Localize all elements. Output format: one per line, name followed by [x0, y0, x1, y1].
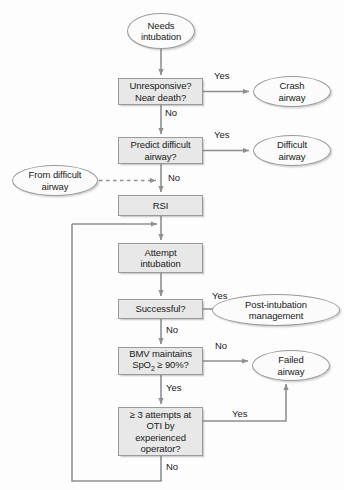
edge-label-yes-crash-airway: Yes	[214, 70, 230, 81]
edge-label-yes-post-intubation: Yes	[212, 290, 228, 301]
node-post-intubation-management: Post-intubation management	[212, 294, 340, 326]
airway-algorithm-flowchart: Needs intubation Unresponsive? Near deat…	[0, 0, 344, 490]
edge-label-no-failed-airway: No	[215, 340, 227, 351]
node-bmv-label: BMV maintains SpO2 ≥ 90%?	[127, 348, 194, 375]
edge-label-yes-failed-airway-return: Yes	[232, 408, 248, 419]
node-predict-difficult-label: Predict difficult airway?	[129, 139, 193, 162]
node-three-attempts-oti: ≥ 3 attempts at OTI by experienced opera…	[118, 407, 203, 456]
node-three-attempts-label: ≥ 3 attempts at OTI by experienced opera…	[128, 409, 193, 455]
node-bmv-spo2-line: SpO2 ≥ 90%?	[132, 359, 189, 370]
node-from-difficult-airway: From difficult airway	[12, 165, 98, 196]
node-successful: Successful?	[118, 299, 203, 319]
edge-label-no-loop-back: No	[166, 461, 178, 472]
edge-label-no-bmv: No	[166, 324, 178, 335]
node-bmv-maintains-spo2: BMV maintains SpO2 ≥ 90%?	[118, 347, 203, 375]
node-difficult-airway: Difficult airway	[253, 135, 331, 166]
node-attempt-intubation-label: Attempt intubation	[138, 247, 182, 270]
node-unresponsive-label: Unresponsive? Near death?	[127, 80, 193, 103]
node-unresponsive-near-death: Unresponsive? Near death?	[118, 78, 203, 105]
node-crash-airway-label: Crash airway	[277, 80, 308, 103]
edge-label-no-predict-difficult: No	[165, 107, 177, 118]
node-successful-label: Successful?	[133, 303, 187, 315]
node-predict-difficult-airway: Predict difficult airway?	[118, 137, 203, 164]
node-rsi: RSI	[118, 195, 203, 216]
node-rsi-label: RSI	[151, 200, 171, 212]
node-failed-airway-label: Failed airway	[276, 354, 307, 377]
node-needs-intubation-label: Needs intubation	[139, 20, 183, 43]
node-crash-airway: Crash airway	[253, 76, 331, 107]
node-difficult-airway-label: Difficult airway	[275, 139, 309, 162]
edge-label-no-rsi: No	[168, 172, 180, 183]
edge-label-yes-difficult-airway: Yes	[214, 129, 230, 140]
node-failed-airway: Failed airway	[252, 350, 330, 381]
node-from-difficult-airway-label: From difficult airway	[27, 169, 84, 192]
node-post-intubation-label: Post-intubation management	[243, 299, 309, 322]
node-attempt-intubation: Attempt intubation	[118, 243, 203, 273]
edge-label-yes-three-attempts: Yes	[166, 382, 182, 393]
node-needs-intubation: Needs intubation	[127, 13, 195, 49]
